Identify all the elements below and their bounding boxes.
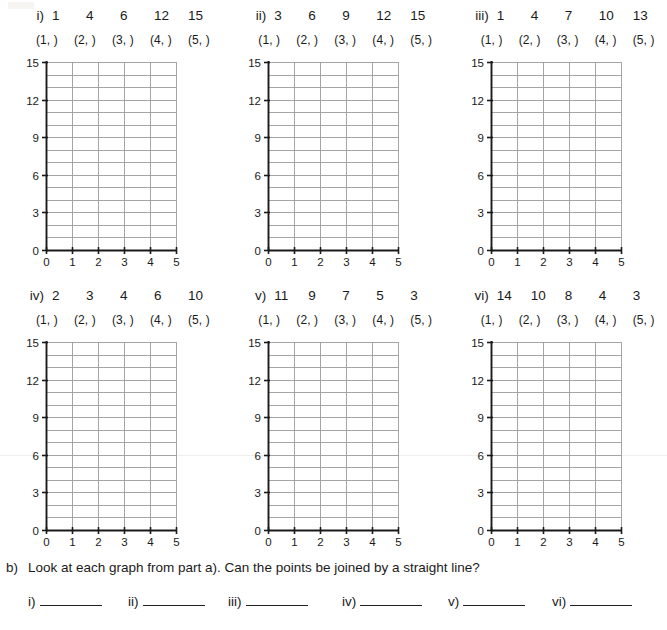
problem-vi: vi) 14 10 8 4 3 (1, ) (2, ) (3, ) (4, ) … (445, 280, 667, 545)
coordinate-grid-v[interactable]: 03691215012345 (240, 332, 406, 552)
x-axis-tick-label: 3 (344, 256, 350, 268)
coordinate-blank[interactable]: (5, ) (410, 33, 448, 47)
x-axis-tick-label: 1 (69, 536, 75, 548)
coordinate-blank[interactable]: (5, ) (633, 33, 667, 47)
problem-ii-number-line: ii) 3 6 9 12 15 (222, 8, 444, 26)
x-axis-tick-label: 3 (121, 256, 127, 268)
problem-ii-label: ii) (244, 8, 266, 23)
number-value: 6 (120, 8, 154, 23)
y-axis-tick-label: 6 (33, 450, 39, 462)
problem-v-numbers: 11 9 7 5 3 (274, 288, 444, 303)
coordinate-grid-i[interactable]: 03691215012345 (18, 52, 184, 272)
x-axis-tick-label: 0 (488, 536, 494, 548)
coordinate-blank[interactable]: (2, ) (296, 33, 334, 47)
answer-blank-iii[interactable] (246, 592, 308, 606)
coordinate-grid-ii[interactable]: 03691215012345 (240, 52, 406, 272)
problem-iii-graph[interactable]: 03691215012345 (463, 52, 629, 272)
coordinate-blank[interactable]: (1, ) (481, 313, 519, 327)
coordinate-blank[interactable]: (4, ) (595, 313, 633, 327)
x-axis-tick-label: 3 (566, 256, 572, 268)
part-b-answer-row: i) ii) iii) iv) v) vi) (0, 592, 667, 620)
coordinate-blank[interactable]: (3, ) (112, 33, 150, 47)
coordinate-blank[interactable]: (2, ) (74, 33, 112, 47)
y-axis-tick-label: 3 (477, 207, 483, 219)
answer-blank-v[interactable] (463, 592, 525, 606)
y-axis-tick-label: 3 (477, 487, 483, 499)
coordinate-blank[interactable]: (3, ) (112, 313, 150, 327)
coordinate-grid-vi[interactable]: 03691215012345 (463, 332, 629, 552)
coordinate-blank[interactable]: (1, ) (36, 33, 74, 47)
y-axis-tick-label: 6 (33, 170, 39, 182)
y-axis-tick-label: 12 (249, 95, 262, 107)
number-value: 2 (52, 288, 86, 303)
y-axis-tick-label: 12 (471, 375, 484, 387)
y-axis-tick-label: 15 (249, 57, 262, 69)
number-value: 4 (599, 288, 633, 303)
answer-blank-ii[interactable] (143, 592, 205, 606)
coordinate-blank[interactable]: (4, ) (372, 313, 410, 327)
number-value: 3 (274, 8, 308, 23)
problem-iv-graph[interactable]: 03691215012345 (18, 332, 184, 552)
coordinate-blank[interactable]: (1, ) (36, 313, 74, 327)
coordinate-blank[interactable]: (1, ) (481, 33, 519, 47)
x-axis-tick-label: 0 (43, 256, 49, 268)
y-axis-tick-label: 0 (477, 525, 483, 537)
coordinate-blank[interactable]: (3, ) (557, 313, 595, 327)
problem-v-label: v) (244, 288, 266, 303)
problem-vi-graph[interactable]: 03691215012345 (463, 332, 629, 552)
problem-ii-graph[interactable]: 03691215012345 (240, 52, 406, 272)
problem-v-graph[interactable]: 03691215012345 (240, 332, 406, 552)
coordinate-blank[interactable]: (2, ) (296, 313, 334, 327)
x-axis-tick-label: 2 (318, 536, 324, 548)
coordinate-blank[interactable]: (5, ) (633, 313, 667, 327)
coordinate-blank[interactable]: (2, ) (519, 313, 557, 327)
number-value: 7 (342, 288, 376, 303)
problem-v: v) 11 9 7 5 3 (1, ) (2, ) (3, ) (4, ) (5… (222, 280, 444, 545)
coordinate-blank[interactable]: (3, ) (557, 33, 595, 47)
answer-blank-vi[interactable] (570, 592, 632, 606)
coordinate-blank[interactable]: (3, ) (334, 33, 372, 47)
coordinate-blank[interactable]: (1, ) (258, 33, 296, 47)
x-axis-tick-label: 2 (95, 256, 101, 268)
part-b-label: b) (6, 560, 28, 575)
x-axis-tick-label: 5 (396, 536, 402, 548)
problem-i-graph[interactable]: 03691215012345 (18, 52, 184, 272)
answer-item-i: i) (28, 592, 102, 609)
answer-blank-i[interactable] (40, 592, 102, 606)
x-axis-tick-label: 3 (566, 536, 572, 548)
answer-label-i: i) (28, 594, 36, 609)
problem-iv-label: iv) (22, 288, 44, 303)
y-axis-tick-label: 9 (33, 412, 39, 424)
y-axis-tick-label: 0 (33, 245, 39, 257)
x-axis-tick-label: 5 (618, 536, 624, 548)
coordinate-blank[interactable]: (5, ) (188, 313, 226, 327)
y-axis-tick-label: 3 (33, 487, 39, 499)
coordinate-blank[interactable]: (2, ) (74, 313, 112, 327)
number-value: 4 (531, 8, 565, 23)
problem-iii-label: iii) (467, 8, 489, 23)
coordinate-blank[interactable]: (4, ) (150, 313, 188, 327)
coordinate-blank[interactable]: (1, ) (258, 313, 296, 327)
answer-blank-iv[interactable] (360, 592, 422, 606)
problem-i-label: i) (22, 8, 44, 23)
coordinate-blank[interactable]: (3, ) (334, 313, 372, 327)
x-axis-tick-label: 4 (370, 256, 377, 268)
number-value: 13 (633, 8, 667, 23)
problem-iii-coordinate-blanks: (1, ) (2, ) (3, ) (4, ) (5, ) (481, 33, 667, 47)
x-axis-tick-label: 2 (540, 536, 546, 548)
coordinate-grid-iii[interactable]: 03691215012345 (463, 52, 629, 272)
number-value: 12 (154, 8, 188, 23)
coordinate-blank[interactable]: (5, ) (188, 33, 226, 47)
coordinate-blank[interactable]: (4, ) (372, 33, 410, 47)
y-axis-tick-label: 6 (255, 170, 261, 182)
coordinate-blank[interactable]: (4, ) (150, 33, 188, 47)
coordinate-blank[interactable]: (5, ) (410, 313, 448, 327)
number-value: 4 (120, 288, 154, 303)
number-value: 8 (565, 288, 599, 303)
answer-item-iv: iv) (342, 592, 422, 609)
coordinate-blank[interactable]: (2, ) (519, 33, 557, 47)
number-value: 3 (410, 288, 444, 303)
problem-iv-number-line: iv) 2 3 4 6 10 (0, 288, 222, 306)
coordinate-blank[interactable]: (4, ) (595, 33, 633, 47)
coordinate-grid-iv[interactable]: 03691215012345 (18, 332, 184, 552)
